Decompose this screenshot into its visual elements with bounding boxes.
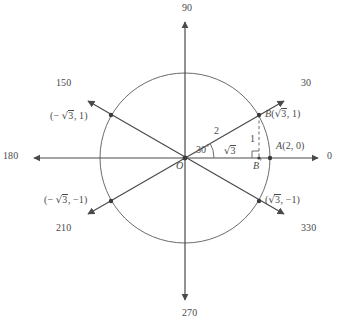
point-a-coords: (2, 0) [282,140,304,151]
quadrant3-rest: , −1) [68,194,87,205]
ray-label-30: 30 [301,78,311,88]
radicand-q4: 3 [274,194,280,206]
angle-value: 30 [196,144,206,155]
sqrt-group-q3: √3 [56,194,68,206]
axis-label-0: 0 [327,151,332,161]
degree-symbol-icon: ° [206,143,209,151]
radicand-adjacent: 3 [230,145,236,157]
point-label-b: B(√3, 1) [265,108,300,120]
radicand-q3: 3 [62,194,68,206]
coordinate-label-quadrant3: (− √3, −1) [44,194,87,206]
radicand-b: 3 [281,108,287,120]
ray-label-210: 210 [56,223,71,233]
sqrt-group-b: √3 [275,108,287,120]
side-label-opposite: 1 [250,134,255,144]
trigonometry-figure: 90 270 180 0 150 30 210 330 O A(2, 0) B(… [0,0,341,325]
quadrant1-rest: , 1) [287,108,301,119]
point-label-a: A(2, 0) [276,141,304,151]
quadrant3-open-paren: (− [44,194,56,205]
sqrt-group-q2: √3 [62,110,74,122]
ray-label-150: 150 [56,78,71,88]
point-origin-dot [183,156,188,161]
radicand-q2: 3 [68,110,74,122]
point-a-dot [268,156,272,160]
quadrant4-rest: , −1) [281,194,300,205]
angle-arc-30 [210,143,214,158]
quadrant2-open-paren: (− [50,110,62,121]
point-q4-dot [257,199,261,203]
coordinate-label-quadrant2: (− √3, 1) [50,110,88,122]
diagram-canvas [0,0,341,325]
ray-label-330: 330 [301,223,316,233]
sqrt-group-q4: √3 [268,194,280,206]
point-b-dot [257,113,261,117]
coordinate-label-quadrant4: (√3, −1) [265,194,300,206]
sqrt-group-adjacent: √3 [224,145,236,157]
prime-mark: ′ [259,157,261,167]
point-q2-dot [109,113,113,117]
angle-label-30: 30° [196,145,209,155]
axis-label-180: 180 [3,151,18,161]
axis-label-90: 90 [182,3,192,13]
axis-label-270: 270 [182,308,197,318]
side-label-hypotenuse: 2 [214,126,219,136]
point-label-b-prime: B′ [253,161,261,171]
side-label-adjacent: √3 [224,145,236,157]
point-q3-dot [109,199,113,203]
point-label-origin: O [176,161,183,171]
quadrant2-rest: , 1) [74,110,88,121]
